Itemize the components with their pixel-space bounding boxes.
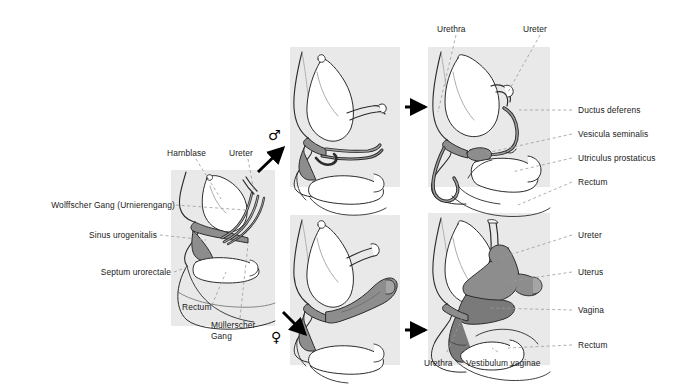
label-ureter-top: Ureter <box>523 24 547 35</box>
label-vestibulum-vaginae: Vestibulum vaginae <box>466 358 540 369</box>
label-ureter-left: Ureter <box>229 148 253 159</box>
label-muellerscher-gang-line2: Gang <box>211 331 232 342</box>
label-rectum-female: Rectum <box>578 340 607 351</box>
label-vesicula-seminalis: Vesicula seminalis <box>578 129 648 140</box>
female-symbol: ♀ <box>271 330 281 344</box>
label-harnblase: Harnblase <box>167 148 206 159</box>
label-wolffscher-gang: Wolffscher Gang (Urnierengang) <box>35 200 175 211</box>
label-utriculus-prostaticus: Utriculus prostaticus <box>578 153 656 164</box>
label-rectum-left: Rectum <box>182 302 211 313</box>
arrow-to-male <box>258 148 283 172</box>
diagram-artwork <box>0 0 692 388</box>
label-urethra-bottom: Urethra <box>424 358 453 369</box>
label-ductus-deferens: Ductus deferens <box>578 105 641 116</box>
male-symbol: ♂ <box>268 128 281 142</box>
label-vagina: Vagina <box>578 305 604 316</box>
label-sinus-urogenitalis: Sinus urogenitalis <box>75 230 157 241</box>
label-muellerscher-gang-line1: Müllerscher <box>211 320 255 331</box>
label-uterus: Uterus <box>578 267 603 278</box>
label-urethra-top: Urethra <box>437 24 466 35</box>
label-septum-urorectale: Septum urorectale <box>80 267 171 278</box>
anatomy-figure: Harnblase Ureter Wolffscher Gang (Urnier… <box>0 0 692 388</box>
label-ureter-female: Ureter <box>578 230 602 241</box>
label-rectum-male: Rectum <box>578 177 607 188</box>
